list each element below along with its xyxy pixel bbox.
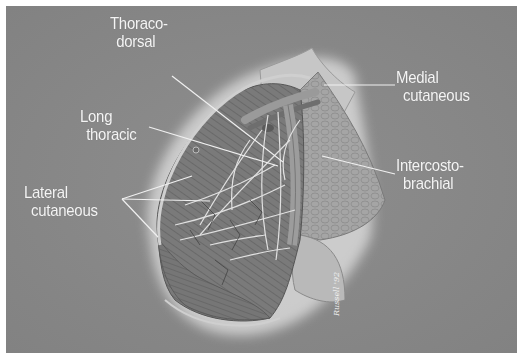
artist-signature: Russell '92: [332, 272, 341, 316]
label-intercostobrachial: Intercosto- brachial: [396, 157, 464, 193]
label-thoracodorsal: Thoraco- dorsal: [110, 15, 168, 51]
label-lateral-cutaneous: Lateral cutaneous: [24, 184, 98, 220]
label-long-thoracic: Long thoracic: [80, 108, 136, 144]
illustration-frame: Thoraco- dorsal Long thoracic Lateral cu…: [6, 6, 517, 353]
label-medial-cutaneous: Medial cutaneous: [396, 69, 470, 105]
